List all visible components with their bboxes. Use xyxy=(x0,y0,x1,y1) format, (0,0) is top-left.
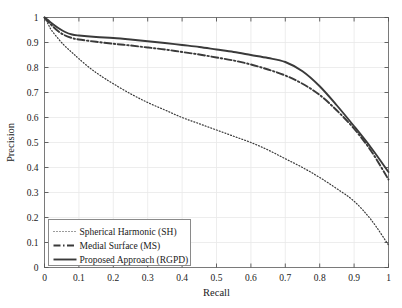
x-tick-label: 0.4 xyxy=(176,273,188,283)
y-tick-label: 0.2 xyxy=(27,213,39,223)
y-tick-label: 0.1 xyxy=(27,238,39,248)
x-tick-label: 0.9 xyxy=(348,273,360,283)
x-tick-label: 1 xyxy=(386,273,391,283)
legend-label-2: Medial Surface (MS) xyxy=(80,241,161,252)
x-tick-label: 0.3 xyxy=(142,273,154,283)
y-tick-label: 0.6 xyxy=(27,113,39,123)
y-tick-label: 0.4 xyxy=(27,163,39,173)
x-tick-label: 0.1 xyxy=(73,273,85,283)
x-tick-label: 0.8 xyxy=(314,273,326,283)
y-tick-label: 0.7 xyxy=(27,88,39,98)
y-axis-title: Precision xyxy=(5,122,16,162)
legend: Spherical Harmonic (SH)Medial Surface (M… xyxy=(49,220,191,266)
y-tick-label: 0.5 xyxy=(27,138,39,148)
y-tick-label: 1 xyxy=(34,13,39,23)
y-tick-label: 0.3 xyxy=(27,188,39,198)
x-tick-label: 0.2 xyxy=(107,273,119,283)
x-tick-label: 0.6 xyxy=(245,273,257,283)
x-tick-label: 0.7 xyxy=(279,273,291,283)
precision-recall-chart: 00.10.20.30.40.50.60.70.80.9100.10.20.30… xyxy=(0,0,402,308)
y-tick-label: 0.8 xyxy=(27,63,39,73)
chart-canvas: 00.10.20.30.40.50.60.70.80.9100.10.20.30… xyxy=(0,0,402,308)
x-tick-label: 0 xyxy=(42,273,47,283)
x-axis-title: Recall xyxy=(203,287,230,298)
legend-label-3: Proposed Approach (RGPD) xyxy=(80,255,189,266)
y-tick-label: 0.9 xyxy=(27,38,39,48)
x-tick-label: 0.5 xyxy=(211,273,223,283)
legend-label-1: Spherical Harmonic (SH) xyxy=(80,227,177,238)
y-tick-label: 0 xyxy=(34,263,39,273)
